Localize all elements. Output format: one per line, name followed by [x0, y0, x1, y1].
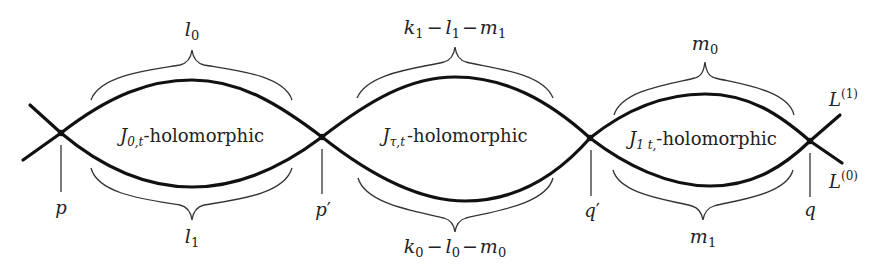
label-top-right-count: m0	[692, 32, 718, 57]
label-region-middle: Jτ,t-holomorphic	[378, 125, 527, 149]
node-p-prime	[319, 134, 325, 140]
left-tail-upper	[30, 105, 61, 133]
boundary-L1-line	[810, 115, 840, 141]
label-point-q: q	[804, 199, 816, 220]
label-top-left-count: l0	[185, 18, 199, 43]
left-tail-lower	[23, 133, 61, 160]
label-region-right: J1 t,-holomorphic	[625, 128, 777, 152]
label-boundary-L1: L(1)	[828, 87, 858, 110]
node-p	[58, 130, 64, 136]
node-q-prime	[587, 135, 593, 141]
holomorphic-strip-diagram: l0 k1−l1−m1 m0 l1 k0−l0−m0 m1 J0,t-holom…	[0, 0, 877, 269]
diagram-svg: l0 k1−l1−m1 m0 l1 k0−l0−m0 m1 J0,t-holom…	[0, 0, 877, 269]
segment-middle-bottom-curve	[322, 137, 590, 201]
label-top-middle-count: k1−l1−m1	[404, 16, 506, 41]
label-point-p: p	[55, 197, 67, 218]
boundary-L0-line	[810, 141, 842, 163]
brace-bottom-right	[613, 170, 793, 220]
brace-top-middle	[357, 47, 553, 98]
point-ticks	[61, 145, 810, 197]
node-q	[807, 138, 813, 144]
label-region-left: J0,t-holomorphic	[116, 125, 264, 149]
brace-top-left	[91, 50, 292, 100]
label-bottom-left-count: l1	[185, 225, 199, 250]
label-bottom-middle-count: k0−l0−m0	[404, 235, 506, 260]
label-point-p-prime: p′	[315, 199, 331, 220]
label-boundary-L0: L(0)	[828, 169, 858, 192]
brace-bottom-middle	[358, 178, 553, 232]
label-point-q-prime: q′	[584, 200, 600, 221]
label-bottom-right-count: m1	[690, 225, 716, 250]
brace-bottom-left	[91, 168, 292, 220]
